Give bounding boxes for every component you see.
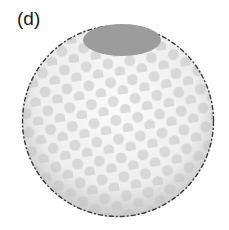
polar-cap bbox=[83, 24, 161, 56]
sphere-figure bbox=[0, 0, 229, 230]
